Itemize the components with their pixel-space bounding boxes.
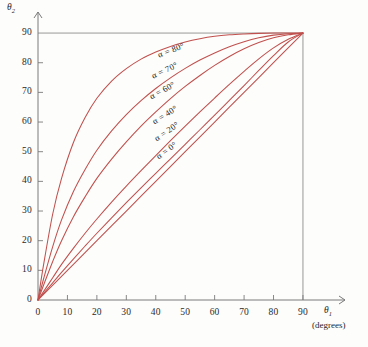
y-axis-title: θ2 xyxy=(7,2,15,14)
y-tick-label-0: 0 xyxy=(4,294,32,304)
x-tick-label-90: 90 xyxy=(288,307,318,317)
x-axis-unit-label: (degrees) xyxy=(312,320,345,330)
y-tick-label-10: 10 xyxy=(4,264,32,274)
y-tick-label-50: 50 xyxy=(4,146,32,156)
y-tick-label-90: 90 xyxy=(4,27,32,37)
y-tick-label-40: 40 xyxy=(4,175,32,185)
x-axis-subscript: 1 xyxy=(329,310,332,317)
axes xyxy=(34,12,345,304)
x-tick-label-50: 50 xyxy=(170,307,200,317)
y-tick-label-30: 30 xyxy=(4,205,32,215)
x-tick-label-20: 20 xyxy=(82,307,112,317)
x-tick-label-70: 70 xyxy=(229,307,259,317)
y-axis-subscript: 2 xyxy=(12,7,15,14)
y-tick-label-20: 20 xyxy=(4,235,32,245)
x-tick-label-40: 40 xyxy=(141,307,171,317)
x-tick-label-30: 30 xyxy=(111,307,141,317)
data-curves xyxy=(38,33,303,300)
x-axis-title: θ1 xyxy=(324,305,332,317)
x-tick-label-10: 10 xyxy=(52,307,82,317)
y-tick-label-70: 70 xyxy=(4,86,32,96)
x-tick-label-60: 60 xyxy=(200,307,230,317)
x-tick-label-0: 0 xyxy=(23,307,53,317)
y-tick-label-80: 80 xyxy=(4,57,32,67)
curve-alpha-0 xyxy=(38,33,303,300)
x-tick-label-80: 80 xyxy=(259,307,289,317)
chart-figure: 0102030405060708090 0102030405060708090 … xyxy=(0,0,368,347)
plot-canvas xyxy=(0,0,368,347)
y-tick-label-60: 60 xyxy=(4,116,32,126)
